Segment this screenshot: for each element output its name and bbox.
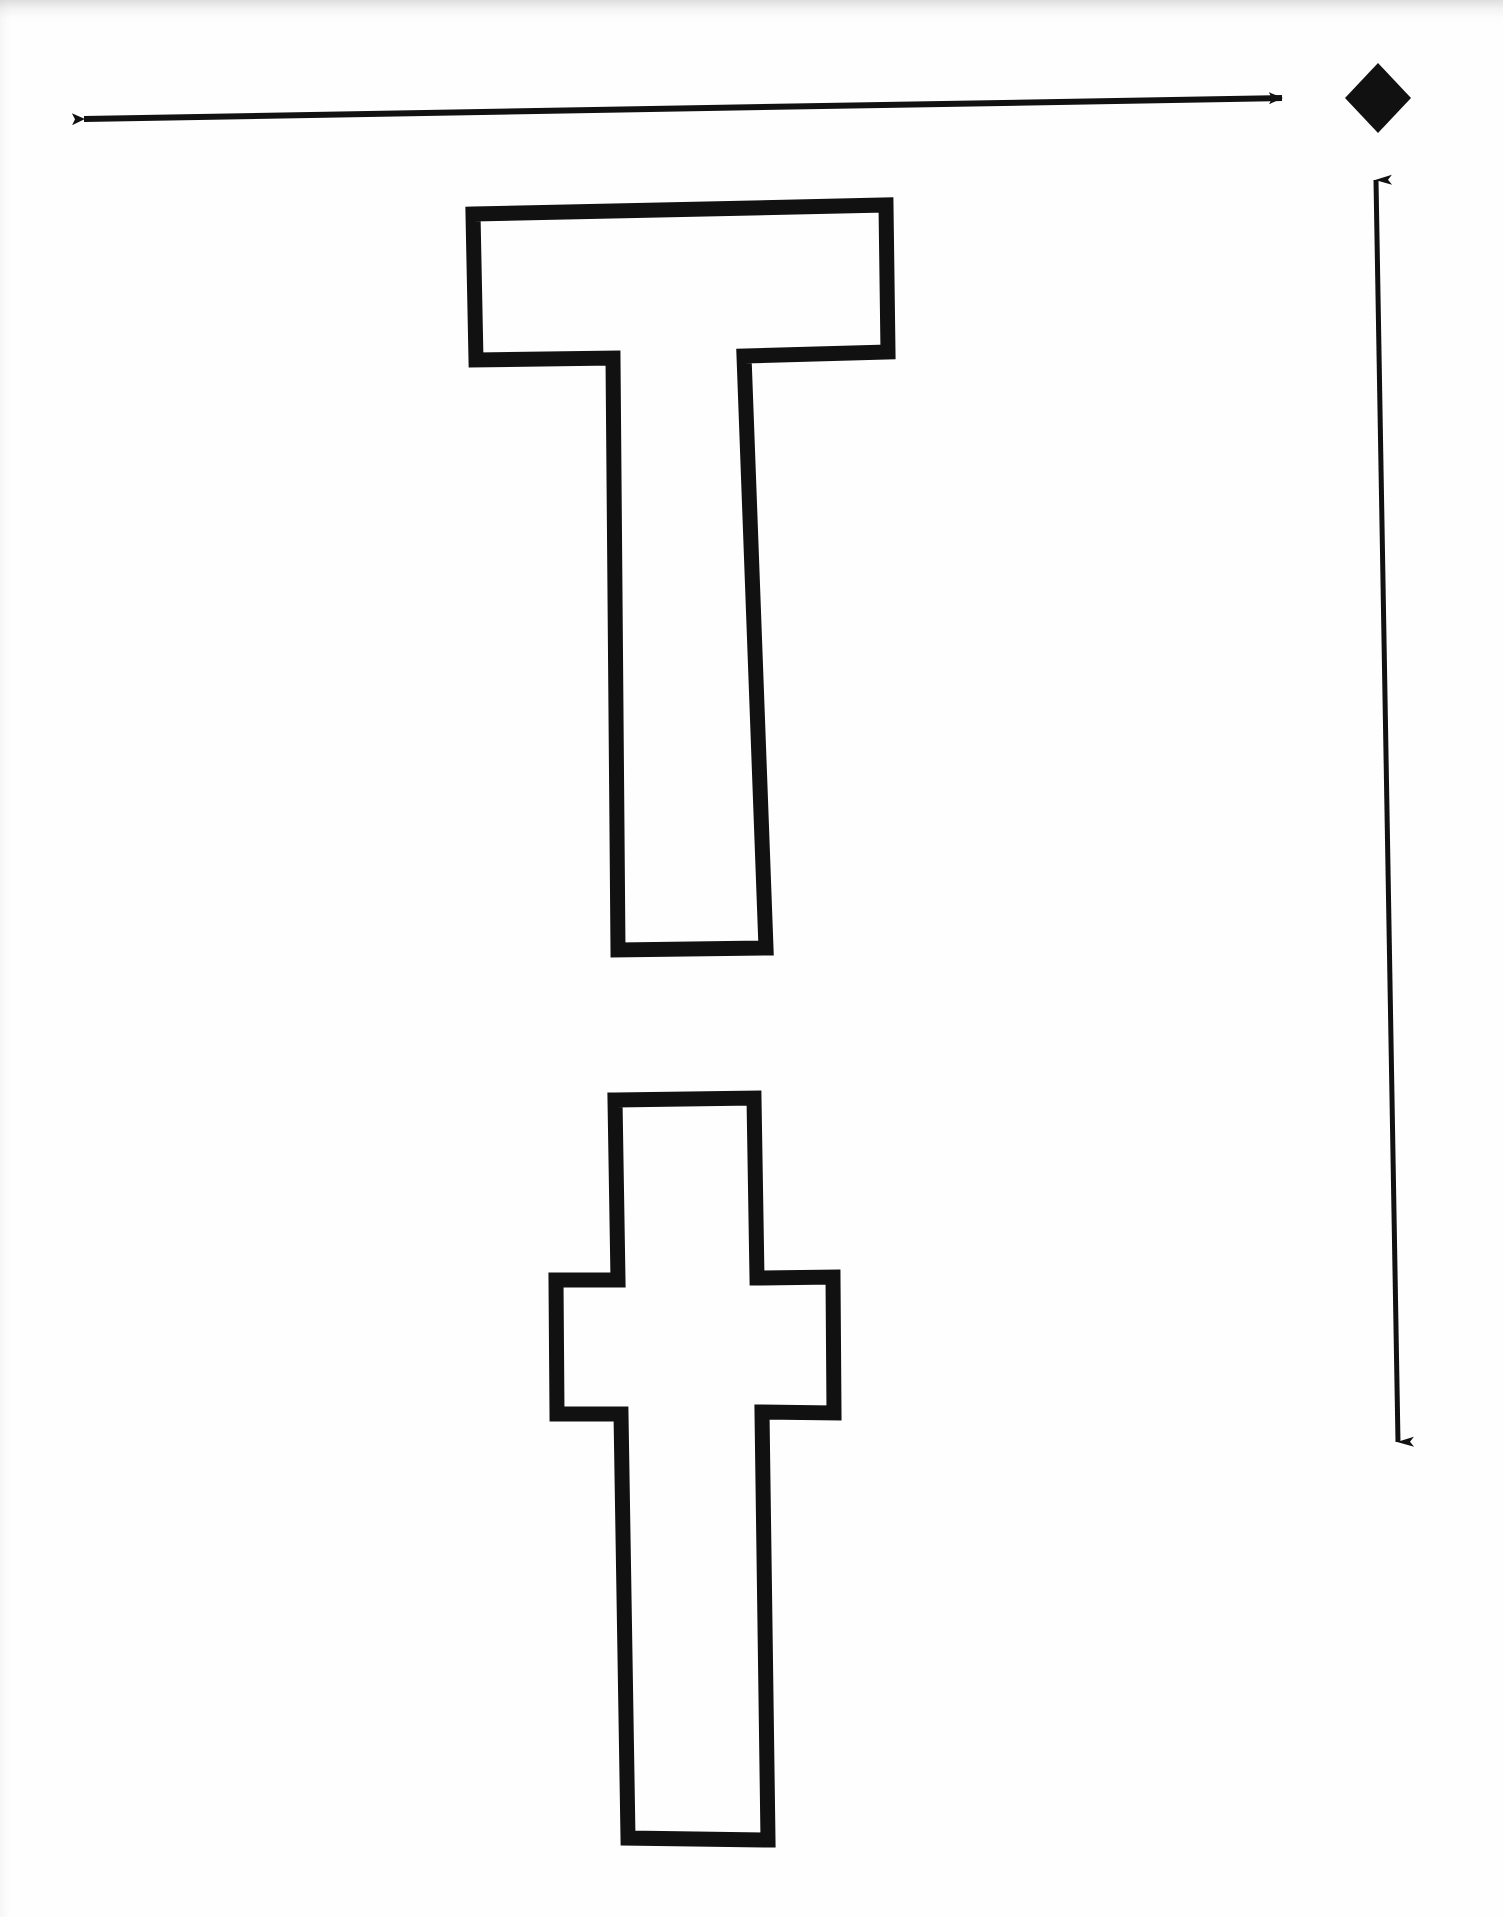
diamond-shape [1345,63,1411,133]
uppercase-t-outline [473,205,888,950]
diamond-marker [1345,63,1411,133]
worksheet-page [0,0,1503,1917]
worksheet-artwork [0,0,1503,1917]
vertical-height-arrow [1376,180,1398,1442]
uppercase-letter-t [473,205,888,950]
lowercase-letter-t [556,1098,834,1840]
height-arrow-line [1376,180,1398,1442]
horizontal-width-arrow [84,98,1282,119]
width-arrow-line [84,98,1282,119]
lowercase-t-outline [556,1098,834,1840]
